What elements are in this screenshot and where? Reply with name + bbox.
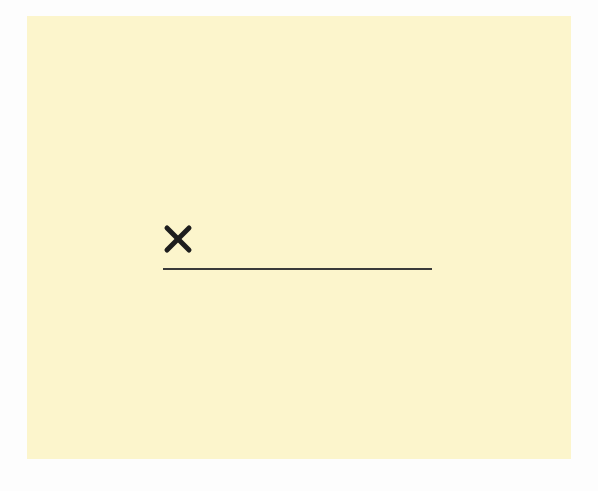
x-mark-icon — [163, 224, 193, 254]
page-canvas — [0, 0, 598, 491]
yellow-paper-sheet — [27, 16, 571, 459]
signature-line[interactable] — [163, 268, 432, 270]
signature-value — [163, 268, 164, 269]
